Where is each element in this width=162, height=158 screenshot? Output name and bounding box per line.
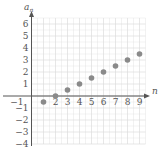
y-tick-label: 3	[23, 55, 29, 65]
y-tick-label: 4	[23, 43, 29, 53]
x-tick-label: 9	[137, 97, 143, 107]
y-tick-label: 5	[23, 31, 29, 41]
data-point	[53, 93, 59, 99]
data-point	[125, 57, 131, 63]
x-tick-label: 6	[101, 97, 107, 107]
y-tick-label: 1	[23, 79, 29, 89]
data-point	[113, 63, 119, 69]
data-point	[65, 87, 71, 93]
x-tick-label: 4	[77, 97, 83, 107]
x-axis-arrow-icon	[144, 94, 150, 99]
sequence-scatter-chart: n an −123456789654321−1−2−3−4	[0, 0, 162, 158]
y-tick-label: −3	[15, 127, 29, 137]
y-tick-label: 2	[23, 67, 29, 77]
x-tick-label: 8	[125, 97, 131, 107]
data-point	[77, 81, 83, 87]
data-point	[137, 51, 143, 57]
y-tick-label: −1	[15, 103, 28, 113]
data-point	[41, 99, 47, 105]
y-tick-label: −2	[15, 115, 28, 125]
data-point	[89, 75, 95, 81]
x-tick-label: 3	[65, 97, 71, 107]
x-tick-label: 5	[89, 97, 95, 107]
y-tick-label: −4	[15, 139, 29, 149]
x-axis-label: n	[152, 86, 158, 96]
y-tick-label: 6	[23, 19, 29, 29]
grid-lines	[32, 18, 146, 144]
data-point	[101, 69, 107, 75]
x-tick-label: 7	[113, 97, 119, 107]
y-axis-label: an	[24, 2, 33, 13]
